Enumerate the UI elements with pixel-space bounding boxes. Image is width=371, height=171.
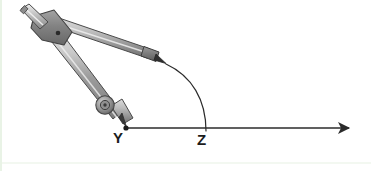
- compass-arc: [166, 64, 206, 131]
- drawing-compass: [20, 4, 166, 127]
- geometry-figure: [0, 0, 371, 171]
- point-y-dot: [123, 125, 128, 130]
- figure-canvas: Y Z: [0, 0, 371, 171]
- compass-pencil-lead: [154, 54, 166, 64]
- point-label-y: Y: [113, 130, 123, 145]
- wheel-hub: [103, 103, 106, 106]
- compass-adjustment-wheel: [96, 96, 114, 114]
- hinge-pivot-screw: [56, 31, 61, 36]
- point-label-z: Z: [197, 132, 206, 147]
